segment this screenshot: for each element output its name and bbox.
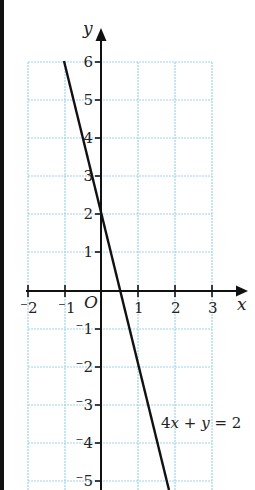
x-axis-label: x [237,294,247,314]
y-tick-label: 6 [83,53,93,71]
line-4x-plus-y-equals-2 [64,61,169,490]
y-axis-label: y [82,18,93,38]
y-tick-label: 1 [83,243,93,261]
equation-label: 4x + y = 2 [161,414,241,432]
y-axis-arrow-icon [96,28,107,41]
x-tick-label: ⁻2 [20,299,37,317]
y-tick-label: ⁻4 [76,434,93,452]
y-tick-label: ⁻3 [76,396,93,414]
y-tick-label: 2 [83,205,93,223]
y-tick-label: ⁻5 [76,472,93,490]
x-tick-labels: ⁻2 ⁻1 1 2 3 [20,299,218,317]
y-tick-labels-negative: ⁻1 ⁻2 ⁻3 ⁻4 ⁻5 [76,320,93,490]
origin-label: O [84,292,98,312]
y-axis [95,28,107,490]
x-tick-label: 2 [171,299,181,317]
x-tick-label: ⁻1 [58,299,75,317]
y-tick-label: 5 [83,91,93,109]
coordinate-plot: y x O ⁻2 ⁻1 1 2 3 6 5 4 3 2 1 ⁻1 ⁻2 ⁻3 ⁻… [0,0,255,490]
x-tick-label: 1 [134,299,144,317]
x-axis [26,285,248,297]
y-tick-label: ⁻2 [76,358,93,376]
x-tick-label: 3 [208,299,218,317]
y-tick-label: ⁻1 [76,320,93,338]
